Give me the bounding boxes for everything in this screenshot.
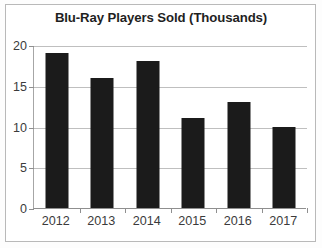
y-axis-tick-label: 15: [3, 80, 27, 94]
plot-area: [33, 46, 306, 209]
chart-title: Blu-Ray Players Sold (Thousands): [0, 10, 322, 25]
y-axis-tick-label: 5: [3, 161, 27, 175]
bar-slot: [171, 45, 217, 208]
bar: [136, 61, 159, 208]
y-axis-tick-label: 20: [3, 39, 27, 53]
y-axis-tick-label: 0: [3, 202, 27, 216]
x-axis-tick-label: 2014: [124, 214, 170, 228]
x-axis-tick-label: 2016: [215, 214, 261, 228]
bar: [182, 118, 205, 208]
bar: [45, 53, 68, 208]
bar-slot: [80, 45, 126, 208]
x-axis-tick: [171, 208, 172, 213]
chart-screenshot: Blu-Ray Players Sold (Thousands) 0510152…: [0, 0, 322, 248]
x-axis-tick: [216, 208, 217, 213]
bar: [91, 78, 114, 208]
x-axis-tick-label: 2012: [33, 214, 79, 228]
bar-slot: [34, 45, 80, 208]
bar-slot: [216, 45, 262, 208]
bar: [227, 102, 250, 208]
x-axis-tick-labels: 201220132014201520162017: [33, 214, 306, 236]
x-axis-tick: [125, 208, 126, 213]
x-axis-tick-label: 2015: [170, 214, 216, 228]
y-axis-tick: [29, 209, 34, 210]
bar-slot: [262, 45, 308, 208]
y-axis-tick-label: 10: [3, 121, 27, 135]
x-axis-tick-label: 2013: [79, 214, 125, 228]
x-axis-tick-label: 2017: [261, 214, 307, 228]
x-axis-tick: [80, 208, 81, 213]
bar-slot: [125, 45, 171, 208]
bar: [273, 127, 296, 209]
x-axis-tick: [262, 208, 263, 213]
x-axis-tick: [307, 208, 308, 213]
y-axis-tick-labels: 05101520: [0, 46, 27, 209]
